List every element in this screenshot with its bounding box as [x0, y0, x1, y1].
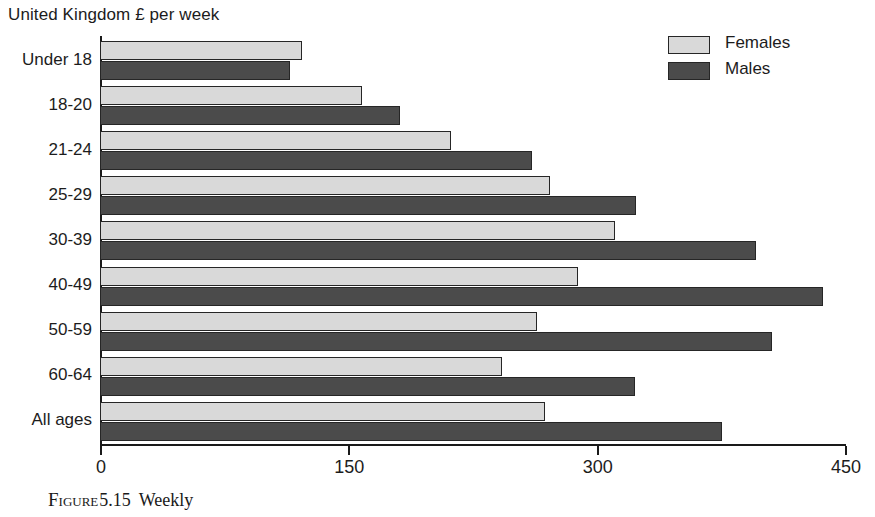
- legend-label-females: Females: [725, 33, 790, 53]
- x-axis-tick-mark-0: [100, 446, 102, 455]
- legend-item-females: Females: [668, 33, 858, 59]
- bar-males-under-18: [100, 61, 290, 80]
- caption-rest: Weekly: [139, 490, 194, 510]
- x-axis-tick-label-300: 300: [583, 457, 613, 478]
- bar-females-30-39: [100, 221, 615, 240]
- bar-males-60-64: [100, 377, 635, 396]
- x-axis-tick-label-450: 450: [831, 457, 861, 478]
- bar-females-under-18: [100, 41, 302, 60]
- bar-females-all-ages: [100, 402, 545, 421]
- y-axis-label-under-18: Under 18: [0, 50, 92, 70]
- x-axis-ticks: 0150300450: [0, 446, 875, 486]
- chart-legend: FemalesMales: [668, 33, 858, 85]
- bar-males-18-20: [100, 106, 400, 125]
- bar-males-40-49: [100, 287, 823, 306]
- x-axis-tick-mark-300: [597, 446, 599, 455]
- y-axis-label-40-49: 40-49: [0, 275, 92, 295]
- figure-container: United Kingdom £ per week Under 1818-202…: [0, 0, 875, 517]
- bar-males-all-ages: [100, 422, 722, 441]
- bar-males-25-29: [100, 196, 636, 215]
- x-axis-tick-mark-150: [348, 446, 350, 455]
- bar-females-25-29: [100, 176, 550, 195]
- bar-group-60-64: [100, 354, 845, 399]
- legend-item-males: Males: [668, 59, 858, 85]
- bar-group-40-49: [100, 264, 845, 309]
- y-axis-label-21-24: 21-24: [0, 140, 92, 160]
- y-axis-category-labels: Under 1818-2021-2425-2930-3940-4950-5960…: [0, 38, 92, 444]
- caption-number: 5.15: [99, 490, 131, 510]
- legend-swatch-females: [668, 36, 710, 54]
- bar-males-21-24: [100, 151, 532, 170]
- x-axis-tick-label-0: 0: [96, 457, 106, 478]
- bar-group-21-24: [100, 128, 845, 173]
- bar-group-all-ages: [100, 399, 845, 444]
- legend-label-males: Males: [725, 59, 770, 79]
- bar-group-18-20: [100, 83, 845, 128]
- y-axis-label-30-39: 30-39: [0, 230, 92, 250]
- y-axis-label-50-59: 50-59: [0, 320, 92, 340]
- bar-group-25-29: [100, 173, 845, 218]
- bar-females-60-64: [100, 357, 502, 376]
- bar-group-30-39: [100, 218, 845, 263]
- bar-females-50-59: [100, 312, 537, 331]
- bar-males-30-39: [100, 241, 756, 260]
- caption-figure-word: Figure: [48, 489, 98, 510]
- y-axis-label-all-ages: All ages: [0, 410, 92, 430]
- y-axis-label-60-64: 60-64: [0, 365, 92, 385]
- legend-swatch-males: [668, 62, 710, 80]
- plot-area: [100, 38, 845, 444]
- bar-group-50-59: [100, 309, 845, 354]
- bar-males-50-59: [100, 332, 772, 351]
- bar-females-21-24: [100, 131, 451, 150]
- figure-caption: Figure5.15Weekly: [48, 489, 193, 511]
- bar-females-18-20: [100, 86, 362, 105]
- bar-females-40-49: [100, 267, 578, 286]
- x-axis-tick-mark-450: [845, 446, 847, 455]
- y-axis-label-18-20: 18-20: [0, 95, 92, 115]
- y-axis-label-25-29: 25-29: [0, 185, 92, 205]
- x-axis-tick-label-150: 150: [334, 457, 364, 478]
- chart-units-label: United Kingdom £ per week: [8, 5, 219, 25]
